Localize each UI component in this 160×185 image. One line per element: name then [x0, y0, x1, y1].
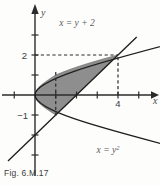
y-axis-label: y: [40, 7, 46, 18]
y-tick-label-neg1: −1: [17, 110, 28, 121]
y-tick-label-2: 2: [22, 50, 27, 61]
y-axis-arrow: [31, 4, 38, 14]
figure-caption: Fig. 6.M.17: [4, 168, 49, 178]
figure-container: y x 2 −1 4 x = y + 2 x = y2 Fig. 6.M.17: [0, 0, 160, 185]
x-axis-label: x: [152, 95, 158, 106]
parabola-equation-label: x = y2: [96, 144, 121, 155]
x-tick-label-4: 4: [115, 98, 120, 109]
parabola-exponent: 2: [116, 144, 120, 151]
shaded-region: [35, 55, 118, 115]
line-equation-label: x = y + 2: [58, 18, 95, 28]
coordinate-plot: y x 2 −1 4 x = y + 2 x = y2: [0, 0, 160, 185]
